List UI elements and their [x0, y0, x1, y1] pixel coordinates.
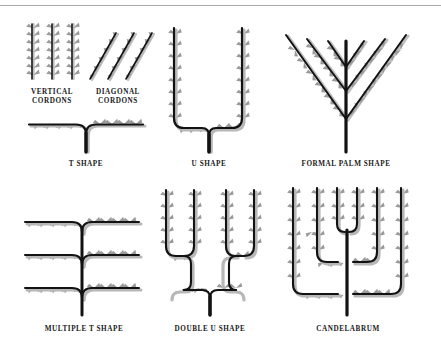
multiple-t-shape-illustration — [25, 217, 141, 315]
label-formal-palm-shape: FORMAL PALM SHAPE — [290, 160, 402, 169]
espalier-shapes-figure: VERTICAL CORDONS DIAGONAL CORDONS T SHAP… — [0, 0, 441, 348]
label-vertical-cordons-line1: VERTICAL — [31, 88, 73, 96]
label-diagonal-cordons-line2: CORDONS — [98, 97, 138, 105]
label-vertical-cordons-line2: CORDONS — [32, 97, 72, 105]
espalier-diagram-svg — [0, 0, 441, 348]
label-candelabrum: CANDELABRUM — [300, 325, 396, 334]
candelabrum-illustration — [287, 188, 409, 315]
diagonal-cordons-illustration — [87, 30, 156, 80]
label-multiple-t-shape: MULTIPLE T SHAPE — [32, 325, 136, 334]
double-u-shape-illustration — [160, 190, 262, 315]
vertical-cordons-illustration — [26, 23, 80, 79]
t-shape-illustration — [29, 119, 145, 152]
label-t-shape: T SHAPE — [46, 160, 126, 169]
label-vertical-cordons: VERTICAL CORDONS — [14, 88, 90, 106]
label-diagonal-cordons-line1: DIAGONAL — [96, 88, 140, 96]
label-double-u-shape: DOUBLE U SHAPE — [162, 325, 258, 334]
u-shape-illustration — [168, 28, 250, 152]
label-u-shape: U SHAPE — [169, 160, 249, 169]
formal-palm-shape-illustration — [286, 35, 408, 152]
label-diagonal-cordons: DIAGONAL CORDONS — [80, 88, 156, 106]
